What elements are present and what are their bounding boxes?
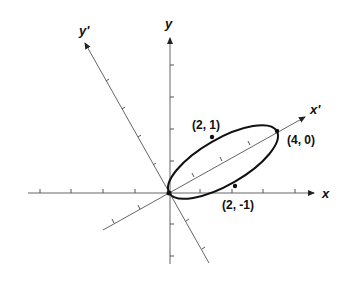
point-label-2-1: (2, 1) xyxy=(192,119,220,131)
point-origin xyxy=(167,191,172,196)
point-label-4-0: (4, 0) xyxy=(287,134,315,146)
y-axis-label: y xyxy=(165,17,172,30)
point-2-m1 xyxy=(233,184,237,188)
point-2-1 xyxy=(210,135,214,139)
ellipse-diagram: y y' x' x (2, 1) (4, 0) (2, -1) xyxy=(0,0,348,281)
x-prime-axis-label: x' xyxy=(310,103,320,116)
point-4-0 xyxy=(275,129,279,133)
x-axis-label: x xyxy=(322,187,329,200)
point-label-2-m1: (2, -1) xyxy=(222,199,254,211)
y-axis xyxy=(170,38,174,264)
y-prime-axis-label: y' xyxy=(79,24,89,37)
x-prime-axis xyxy=(103,117,305,230)
